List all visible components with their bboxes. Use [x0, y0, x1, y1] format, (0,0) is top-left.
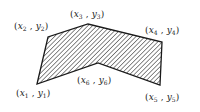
vertex-label-3: (x3 , y3) — [70, 10, 104, 20]
vertex-label-2: (x2 , y2) — [14, 22, 48, 32]
vertex-label-1: (x1 , y1) — [16, 89, 50, 99]
vertex-label-5: (x5 , y5) — [145, 93, 179, 103]
polygon-diagram: (x2 , y2) (x3 , y3) (x4 , y4) (x6 , y6) … — [0, 0, 200, 112]
vertex-label-4: (x4 , y4) — [145, 26, 179, 36]
vertex-label-6: (x6 , y6) — [77, 76, 111, 86]
